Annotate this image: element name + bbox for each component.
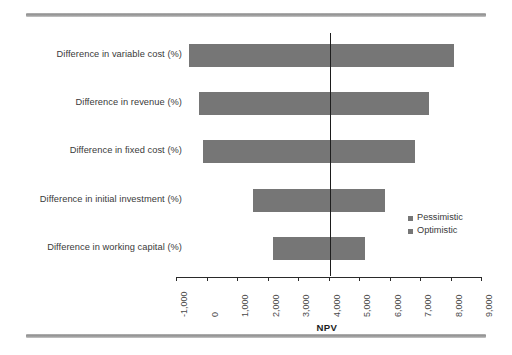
x-axis-tick-label: -1,000 — [180, 291, 189, 317]
category-label-row: Difference in working capital (%) — [0, 243, 182, 255]
x-axis-tick-label: 4,000 — [333, 294, 342, 317]
tornado-bar — [253, 189, 385, 212]
x-axis-tick-label: 6,000 — [394, 294, 403, 317]
category-label-row: Difference in fixed cost (%) — [0, 146, 182, 158]
legend-swatch-icon — [408, 216, 413, 221]
x-axis-tick — [420, 277, 421, 281]
legend-entry[interactable]: Pessimistic — [408, 212, 463, 224]
chart-legend: PessimisticOptimistic — [408, 212, 463, 238]
x-axis-tick-label: 9,000 — [485, 294, 494, 317]
x-axis-tick — [207, 277, 208, 281]
x-axis-tick — [451, 277, 452, 281]
category-label: Difference in fixed cost (%) — [70, 146, 182, 155]
x-axis-tick-label: 1,000 — [241, 294, 250, 317]
category-label-row: Difference in variable cost (%) — [0, 50, 182, 62]
x-axis-tick-label: 0 — [211, 312, 220, 317]
legend-label: Pessimistic — [417, 213, 463, 222]
x-axis-tick — [359, 277, 360, 281]
legend-swatch-icon — [408, 229, 413, 234]
x-axis-tick — [481, 277, 482, 281]
x-axis-tick — [390, 277, 391, 281]
category-label: Difference in working capital (%) — [47, 243, 182, 252]
tornado-bar — [273, 237, 365, 260]
x-axis-tick — [176, 277, 177, 281]
x-axis-tick-label: 7,000 — [424, 294, 433, 317]
category-label: Difference in initial investment (%) — [40, 195, 182, 204]
x-axis-tick — [237, 277, 238, 281]
base-case-reference-line — [330, 33, 331, 276]
tornado-chart-figure: Difference in variable cost (%)Differenc… — [0, 0, 512, 355]
x-axis-tick-label: 3,000 — [302, 294, 311, 317]
legend-entry[interactable]: Optimistic — [408, 225, 463, 237]
tornado-bar — [203, 140, 415, 163]
category-label-row: Difference in revenue (%) — [0, 98, 182, 110]
category-label-row: Difference in initial investment (%) — [0, 195, 182, 207]
tornado-bar — [189, 44, 453, 67]
legend-label: Optimistic — [417, 226, 457, 235]
tornado-bar — [199, 92, 429, 115]
category-label: Difference in revenue (%) — [76, 98, 183, 107]
x-axis-tick-label: 5,000 — [363, 294, 372, 317]
x-axis-tick-label: 8,000 — [455, 294, 464, 317]
category-label: Difference in variable cost (%) — [57, 50, 182, 59]
x-axis-tick — [268, 277, 269, 281]
x-axis-tick — [298, 277, 299, 281]
x-axis-tick — [329, 277, 330, 281]
x-axis-tick-label: 2,000 — [272, 294, 281, 317]
x-axis-title: NPV — [317, 322, 338, 333]
plot-area: Difference in variable cost (%)Differenc… — [0, 0, 512, 355]
